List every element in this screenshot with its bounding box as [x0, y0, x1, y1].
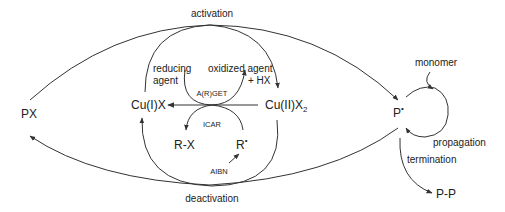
monomer-label: monomer: [415, 57, 458, 68]
propagation-label: propagation: [433, 137, 486, 148]
oxidized-agent-label-1: oxidized agent: [208, 63, 273, 74]
species-p-radical: P•: [393, 104, 404, 120]
reducing-agent-label-1: reducing: [153, 63, 191, 74]
subscript: 2: [303, 105, 308, 114]
aibn-arrow: [229, 154, 239, 163]
species-pp: P-P: [436, 187, 456, 201]
termination-arrow: [400, 138, 432, 193]
argat-label: A(R)GET: [197, 89, 228, 98]
species-r-radical: R•: [236, 136, 248, 152]
deactivation-arrow: [30, 128, 398, 185]
species-cu2: Cu(II)X2: [265, 98, 308, 114]
termination-label: termination: [407, 154, 456, 165]
deactivation-label: deactivation: [185, 193, 238, 204]
aibn-label: AIBN: [210, 167, 228, 176]
oxidized-agent-label-2: + HX: [248, 75, 271, 86]
icar-label: ICAR: [203, 120, 222, 129]
argat-arrow: [184, 70, 245, 105]
monomer-arrow: [427, 72, 433, 89]
atrp-mechanism-diagram: activation deactivation reducing agent o…: [0, 0, 505, 212]
species-rx: R-X: [174, 138, 195, 152]
species-px: PX: [21, 107, 37, 121]
species-cu1: Cu(I)X: [131, 98, 166, 112]
activation-label: activation: [191, 8, 233, 19]
propagation-loop: [406, 87, 448, 137]
reducing-agent-label-2: agent: [153, 75, 178, 86]
